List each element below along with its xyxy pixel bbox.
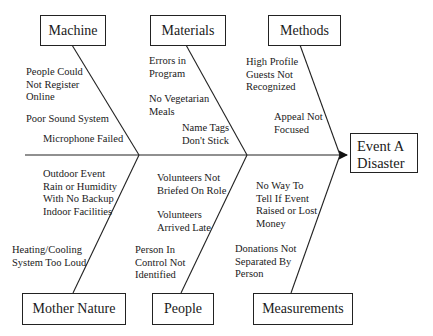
cause-materials-3: Name Tags Don't Stick: [182, 122, 229, 147]
category-people: People: [152, 293, 214, 325]
cause-measurements-2: Donations Not Separated By Person: [235, 243, 297, 281]
cause-measurements-1: No Way To Tell If Event Raised or Lost M…: [256, 180, 317, 230]
cause-machine-1: People Could Not Register Online: [26, 66, 83, 104]
cause-machine-2: Poor Sound System: [26, 113, 109, 126]
cause-people-3: Person In Control Not Identified: [135, 244, 185, 282]
category-materials: Materials: [150, 15, 226, 46]
cause-people-2: Volunteers Arrived Late: [157, 209, 211, 234]
bone-methods: [300, 45, 340, 155]
category-measurements: Measurements: [253, 293, 353, 325]
cause-materials-1: Errors in Program: [149, 55, 186, 80]
effect-box: Event A Disaster: [350, 133, 418, 173]
cause-people-1: Volunteers Not Briefed On Role: [157, 172, 226, 197]
cause-mother-nature-1: Outdoor Event Rain or Humidity With No B…: [43, 168, 117, 218]
category-mother-nature: Mother Nature: [22, 293, 126, 325]
cause-mother-nature-2: Heating/Cooling System Too Loud: [12, 244, 86, 269]
category-machine: Machine: [40, 15, 106, 46]
cause-methods-2: Appeal Not Focused: [274, 111, 323, 136]
cause-machine-3: Microphone Failed: [43, 133, 123, 146]
cause-materials-2: No Vegetarian Meals: [149, 93, 209, 118]
category-methods: Methods: [268, 15, 341, 46]
cause-methods-1: High Profile Guests Not Recognized: [246, 56, 298, 94]
